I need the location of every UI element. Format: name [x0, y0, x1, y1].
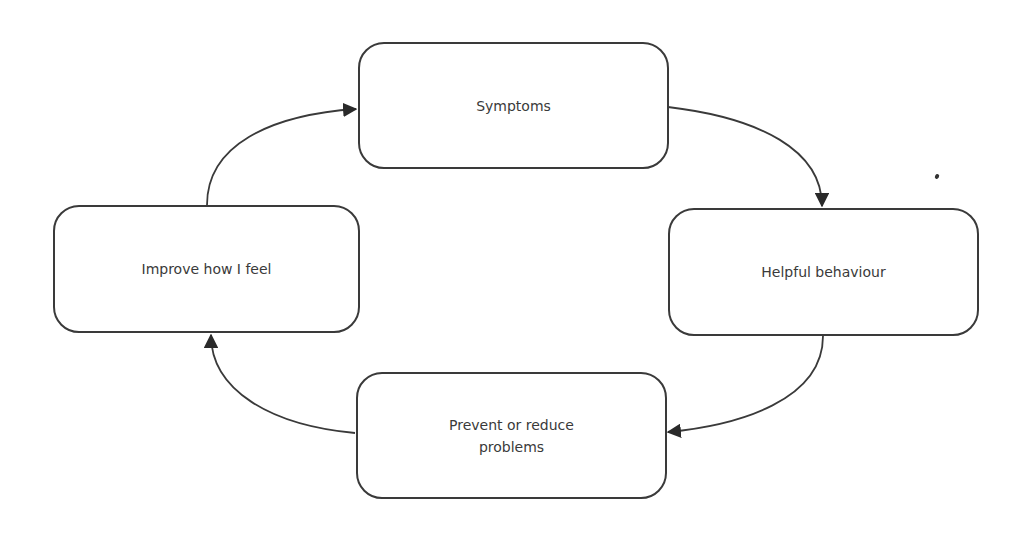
node-improve-feel: Improve how I feel [53, 205, 360, 333]
node-label: Improve how I feel [142, 258, 272, 280]
node-helpful-behaviour: Helpful behaviour [668, 208, 979, 336]
node-label: Helpful behaviour [761, 261, 885, 283]
arrow-symptoms-to-helpful [668, 107, 822, 206]
node-prevent-reduce: Prevent or reduce problems [356, 372, 667, 499]
arrow-improve-to-symptoms [207, 109, 356, 205]
node-label: Symptoms [476, 95, 551, 117]
node-symptoms: Symptoms [358, 42, 669, 169]
arrow-prevent-to-improve [211, 335, 355, 433]
arrow-helpful-to-prevent [668, 336, 823, 432]
node-label: Prevent or reduce problems [427, 414, 597, 458]
